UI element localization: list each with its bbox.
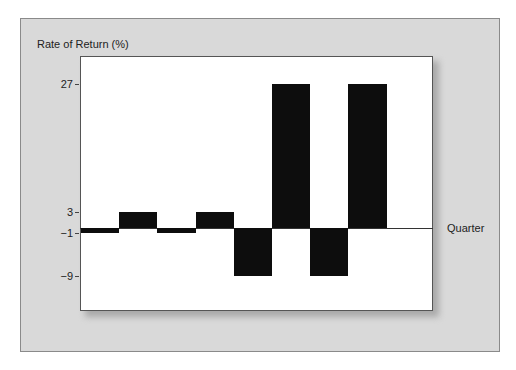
bar-q4: [196, 212, 234, 228]
bar-q2: [119, 212, 157, 228]
bar-q6: [272, 84, 310, 228]
y-tick-label: 27: [43, 78, 73, 90]
y-tick-mark: [75, 212, 79, 213]
bar-q5: [234, 228, 272, 276]
y-axis-label: Rate of Return (%): [37, 38, 129, 50]
y-tick-mark: [75, 276, 79, 277]
y-tick-mark: [75, 84, 79, 85]
y-tick-label: −1: [43, 227, 73, 239]
y-tick-label: −9: [43, 270, 73, 282]
x-axis-label: Quarter: [447, 222, 484, 234]
bar-q7: [310, 228, 348, 276]
y-tick-mark: [75, 233, 79, 234]
bar-q1: [81, 228, 119, 233]
bar-q3: [157, 228, 195, 233]
y-tick-label: 3: [43, 206, 73, 218]
bar-q8: [348, 84, 386, 228]
